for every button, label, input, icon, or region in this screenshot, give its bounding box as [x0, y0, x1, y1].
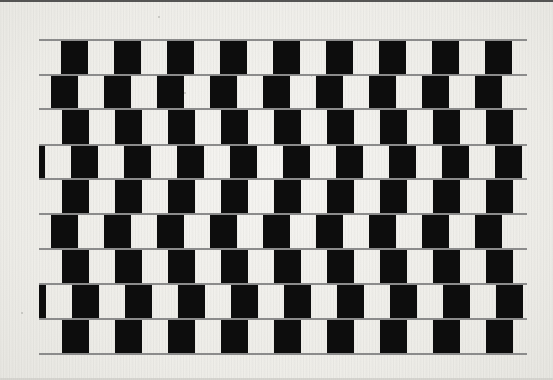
tile-square — [125, 285, 152, 318]
tile-square — [210, 215, 237, 248]
tile-square — [380, 320, 407, 353]
tile-square — [475, 76, 502, 108]
tile-square — [433, 250, 460, 283]
tile-square — [115, 320, 142, 353]
tile-square — [442, 146, 469, 178]
tile-square — [284, 285, 311, 318]
tile-square — [210, 76, 237, 108]
tile-square — [157, 76, 184, 108]
tile-square — [221, 320, 248, 353]
tile-square — [433, 180, 460, 213]
tile-square — [336, 146, 363, 178]
tile-square — [61, 41, 88, 74]
tile-square — [39, 285, 46, 318]
tile-row — [39, 250, 527, 283]
tile-square — [273, 41, 300, 74]
tile-square — [433, 320, 460, 353]
tile-square — [62, 250, 89, 283]
tile-square — [115, 250, 142, 283]
tile-square — [327, 180, 354, 213]
tile-square — [62, 180, 89, 213]
cafe-wall-illusion-figure — [0, 0, 553, 380]
tile-square — [221, 180, 248, 213]
tile-square — [274, 180, 301, 213]
tile-square — [51, 215, 78, 248]
tile-square — [486, 180, 513, 213]
tile-square — [178, 285, 205, 318]
tile-square — [104, 215, 131, 248]
tile-square — [389, 146, 416, 178]
tile-square — [486, 320, 513, 353]
tile-square — [316, 76, 343, 108]
tile-square — [379, 41, 406, 74]
tile-square — [39, 146, 45, 178]
tile-row — [39, 320, 527, 353]
tile-square — [475, 215, 502, 248]
tile-square — [283, 146, 310, 178]
tile-square — [62, 320, 89, 353]
tile-square — [495, 146, 522, 178]
tile-square — [380, 250, 407, 283]
tile-square — [231, 285, 258, 318]
tile-row — [39, 215, 527, 248]
tile-square — [422, 215, 449, 248]
tile-square — [220, 41, 247, 74]
tile-square — [168, 180, 195, 213]
tile-square — [327, 110, 354, 144]
tile-square — [168, 250, 195, 283]
tile-square — [432, 41, 459, 74]
tile-square — [167, 41, 194, 74]
tile-square — [380, 110, 407, 144]
tile-square — [422, 76, 449, 108]
tile-square — [327, 320, 354, 353]
tile-square — [380, 180, 407, 213]
tile-row — [39, 146, 527, 178]
tile-square — [443, 285, 470, 318]
tile-square — [433, 110, 460, 144]
tile-square — [369, 215, 396, 248]
tile-square — [485, 41, 512, 74]
tile-square — [221, 110, 248, 144]
tile-square — [274, 250, 301, 283]
tile-square — [115, 110, 142, 144]
tile-square — [168, 110, 195, 144]
mortar-line — [39, 353, 527, 355]
cafe-wall-pattern — [0, 0, 553, 380]
tile-row — [39, 180, 527, 213]
tile-square — [230, 146, 257, 178]
tile-square — [221, 250, 248, 283]
tile-square — [274, 320, 301, 353]
tile-square — [327, 250, 354, 283]
tile-square — [177, 146, 204, 178]
tile-square — [316, 215, 343, 248]
tile-square — [115, 180, 142, 213]
tile-square — [326, 41, 353, 74]
tile-row — [39, 76, 527, 108]
tile-row — [39, 285, 527, 318]
tile-square — [486, 250, 513, 283]
tile-square — [51, 76, 78, 108]
tile-square — [72, 285, 99, 318]
tile-square — [263, 76, 290, 108]
tile-row — [39, 110, 527, 144]
tile-square — [104, 76, 131, 108]
tile-square — [71, 146, 98, 178]
tile-square — [390, 285, 417, 318]
tile-square — [114, 41, 141, 74]
tile-square — [274, 110, 301, 144]
tile-square — [263, 215, 290, 248]
tile-square — [168, 320, 195, 353]
tile-square — [62, 110, 89, 144]
tile-square — [486, 110, 513, 144]
tile-row — [39, 41, 527, 74]
tile-square — [124, 146, 151, 178]
tile-square — [157, 215, 184, 248]
tile-square — [496, 285, 523, 318]
tile-square — [369, 76, 396, 108]
tile-square — [337, 285, 364, 318]
